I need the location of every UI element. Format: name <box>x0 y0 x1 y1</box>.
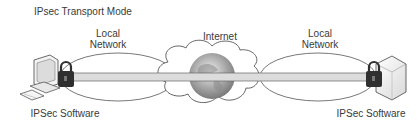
lock-right-icon <box>366 62 382 87</box>
desktop-computer-icon <box>20 55 60 100</box>
ipsec-tunnel-bar <box>58 73 374 81</box>
internet-cloud-icon <box>158 40 259 102</box>
